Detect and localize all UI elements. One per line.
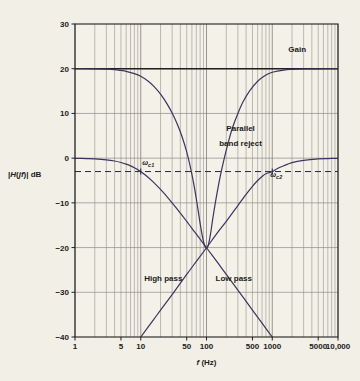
y-tick-label: 10 <box>60 109 69 118</box>
gain-label: Gain <box>288 45 306 54</box>
y-tick-label: −20 <box>55 244 69 253</box>
y-tick-label: −10 <box>55 199 69 208</box>
low-pass-label: Low pass <box>216 274 253 283</box>
x-tick-label: 10 <box>136 342 145 351</box>
high-pass-label: High pass <box>144 274 183 283</box>
x-tick-label: 100 <box>200 342 214 351</box>
y-tick-label: 0 <box>65 154 70 163</box>
x-axis-title: f (Hz) <box>197 358 217 367</box>
x-tick-label: 1000 <box>263 342 281 351</box>
x-tick-label: 50 <box>182 342 191 351</box>
x-tick-label: 5 <box>119 342 124 351</box>
y-tick-label: 30 <box>60 20 69 29</box>
x-tick-label: 500 <box>246 342 260 351</box>
y-tick-label: 20 <box>60 65 69 74</box>
bode-magnitude-chart: 1510501005001000500010,0003020100−10−20−… <box>0 0 360 381</box>
y-tick-label: −40 <box>55 333 69 342</box>
parallel-band-reject-label-line1: Parallel <box>226 124 254 133</box>
x-tick-label: 1 <box>73 342 78 351</box>
x-tick-label: 10,000 <box>326 342 351 351</box>
chart-svg: 1510501005001000500010,0003020100−10−20−… <box>0 0 360 381</box>
y-axis-title: |H(jf)| dB <box>8 170 42 179</box>
parallel-band-reject-label-line2: band reject <box>219 139 262 148</box>
y-tick-label: −30 <box>55 288 69 297</box>
